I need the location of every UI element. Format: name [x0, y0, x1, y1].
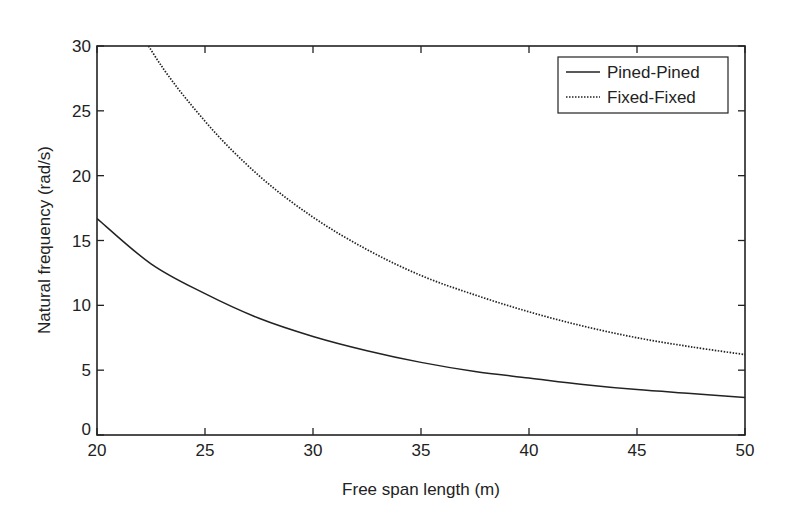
- x-axis-label: Free span length (m): [342, 480, 500, 499]
- y-tick-label: 15: [72, 232, 91, 251]
- line-chart: 20253035404550051015202530 Free span len…: [0, 0, 785, 518]
- series-line-pined-pined: [97, 218, 745, 397]
- legend: Pined-Pined Fixed-Fixed: [558, 57, 728, 113]
- y-tick-label: 5: [82, 361, 91, 380]
- x-tick-label: 35: [412, 441, 431, 460]
- y-tick-label: 0: [82, 420, 91, 439]
- legend-label-fixed: Fixed-Fixed: [607, 88, 696, 107]
- x-tick-label: 30: [304, 441, 323, 460]
- y-axis-label: Natural frequency (rad/s): [35, 146, 54, 334]
- y-tick-label: 25: [72, 102, 91, 121]
- y-tick-label: 30: [72, 37, 91, 56]
- x-tick-label: 50: [736, 441, 755, 460]
- series-line-fixed-fixed: [97, 0, 745, 355]
- x-tick-label: 40: [520, 441, 539, 460]
- legend-label-pined: Pined-Pined: [607, 63, 700, 82]
- x-tick-label: 25: [196, 441, 215, 460]
- y-tick-label: 10: [72, 296, 91, 315]
- x-tick-label: 20: [88, 441, 107, 460]
- x-tick-label: 45: [628, 441, 647, 460]
- y-tick-label: 20: [72, 167, 91, 186]
